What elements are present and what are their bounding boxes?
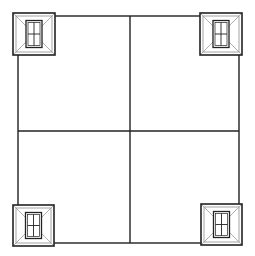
corner-element-top-left <box>13 13 55 55</box>
corner-element-top-right <box>200 13 242 55</box>
corner-element-bottom-left <box>13 205 54 246</box>
plan-drawing <box>0 0 255 256</box>
corner-elements <box>13 13 242 246</box>
corner-element-bottom-right <box>201 204 242 245</box>
